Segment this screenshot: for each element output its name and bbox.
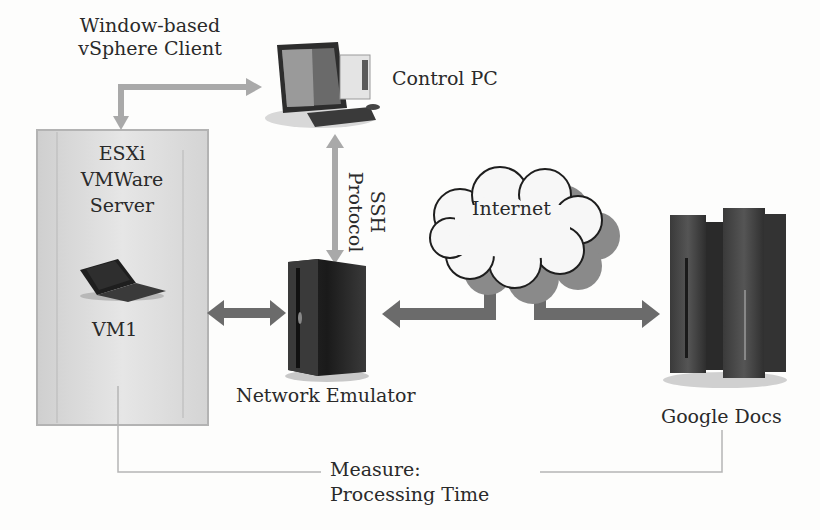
ssh-protocol-label: SSH Protocol — [345, 162, 389, 262]
vsphere-client-line1: Window-based — [75, 14, 225, 37]
ssh-line1: SSH — [367, 162, 389, 262]
google-docs-label: Google Docs — [661, 405, 782, 428]
network-emulator-icon — [285, 259, 369, 382]
internet-label: Internet — [472, 197, 551, 220]
esxi-line1: ESXi — [72, 140, 172, 166]
vsphere-client-line2: vSphere Client — [75, 37, 225, 60]
measure-label: Measure: Processing Time — [330, 458, 489, 506]
esxi-line2: VMWare — [72, 166, 172, 192]
ssh-line2: Protocol — [345, 162, 367, 262]
vsphere-client-label: Window-based vSphere Client — [75, 14, 225, 60]
control-pc-label: Control PC — [392, 67, 498, 90]
control-pc-icon — [265, 42, 380, 128]
network-emulator-label: Network Emulator — [236, 384, 416, 407]
esxi-line3: Server — [72, 192, 172, 218]
vm1-label: VM1 — [92, 318, 137, 341]
measure-line2: Processing Time — [330, 483, 489, 506]
google-docs-server-icon — [663, 208, 787, 388]
measure-line1: Measure: — [330, 458, 489, 481]
esxi-server-label: ESXi VMWare Server — [72, 140, 172, 218]
